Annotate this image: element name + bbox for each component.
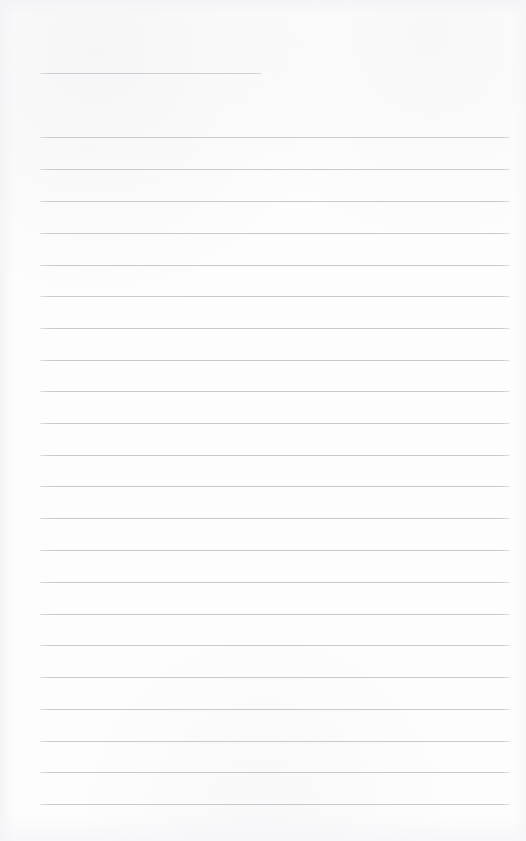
rule-line — [40, 201, 510, 202]
ruled-paper-page — [0, 0, 526, 841]
rule-line — [40, 423, 510, 424]
rule-line — [40, 391, 510, 392]
rule-line — [40, 741, 510, 742]
rule-line — [40, 137, 510, 138]
rule-line — [40, 233, 510, 234]
rule-line — [40, 645, 510, 646]
writing-area — [0, 0, 526, 841]
rule-line — [40, 550, 510, 551]
rule-line — [40, 455, 510, 456]
rule-line — [40, 709, 510, 710]
rule-line — [40, 518, 510, 519]
rule-line — [40, 328, 510, 329]
rule-line — [40, 772, 510, 773]
rule-line — [40, 804, 510, 805]
rule-line — [40, 582, 510, 583]
rule-line — [40, 169, 510, 170]
rule-line — [40, 265, 510, 266]
header-rule-line — [40, 73, 262, 74]
rule-line — [40, 614, 510, 615]
rule-line — [40, 677, 510, 678]
rule-line — [40, 486, 510, 487]
rule-line — [40, 360, 510, 361]
rule-line — [40, 296, 510, 297]
